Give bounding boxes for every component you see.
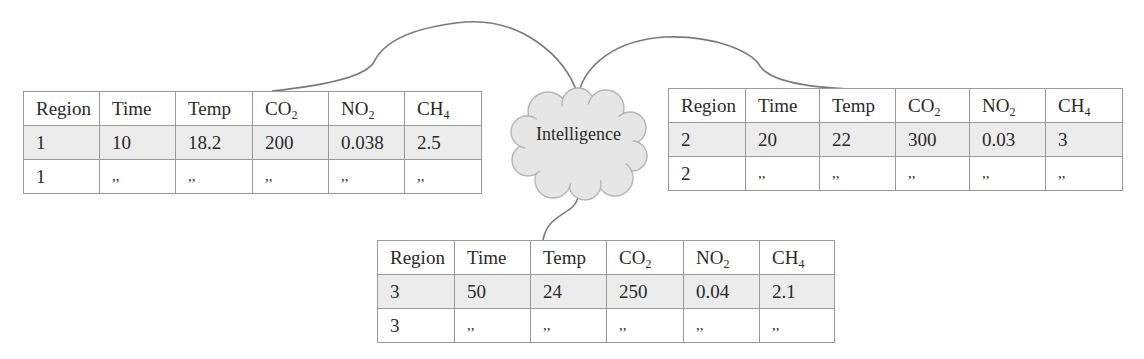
header-time: Time xyxy=(100,92,176,126)
table-row: 1 10 18.2 200 0.038 2.5 xyxy=(24,126,482,160)
header-co2: CO2 xyxy=(253,92,329,126)
cell-ch4: 2.5 xyxy=(405,126,482,160)
table-row: 1 ,, ,, ,, ,, ,, xyxy=(24,160,482,194)
cell-temp: 22 xyxy=(820,123,896,157)
header-temp: Temp xyxy=(176,92,253,126)
cell-ch4: ,, xyxy=(405,160,482,194)
header-time: Time xyxy=(455,241,531,275)
connector-cloud-to-table2 xyxy=(578,37,880,95)
cell-no2: 0.038 xyxy=(329,126,405,160)
header-region: Region xyxy=(669,89,746,123)
cell-co2: ,, xyxy=(896,157,970,191)
header-region: Region xyxy=(24,92,100,126)
header-no2: NO2 xyxy=(684,241,760,275)
cell-co2: ,, xyxy=(607,309,684,343)
cell-co2: 200 xyxy=(253,126,329,160)
data-table-region-1: Region Time Temp CO2 NO2 CH4 1 10 18.2 2… xyxy=(23,91,482,194)
cell-ch4: 2.1 xyxy=(760,275,835,309)
cell-region: 3 xyxy=(378,309,455,343)
header-no2: NO2 xyxy=(329,92,405,126)
table-header-row: Region Time Temp CO2 NO2 CH4 xyxy=(669,89,1123,123)
cell-time: ,, xyxy=(746,157,820,191)
cell-ch4: ,, xyxy=(1046,157,1123,191)
data-table-region-2: Region Time Temp CO2 NO2 CH4 2 20 22 300… xyxy=(668,88,1123,191)
cell-region: 2 xyxy=(669,123,746,157)
cell-region: 1 xyxy=(24,160,100,194)
header-temp: Temp xyxy=(531,241,607,275)
cell-no2: ,, xyxy=(329,160,405,194)
cell-region: 2 xyxy=(669,157,746,191)
intelligence-label: Intelligence xyxy=(512,124,645,145)
cell-temp: ,, xyxy=(820,157,896,191)
connector-cloud-to-table3 xyxy=(543,196,578,240)
cell-no2: ,, xyxy=(684,309,760,343)
cell-region: 3 xyxy=(378,275,455,309)
cell-co2: 250 xyxy=(607,275,684,309)
header-region: Region xyxy=(378,241,455,275)
cell-time: ,, xyxy=(455,309,531,343)
cell-co2: ,, xyxy=(253,160,329,194)
header-co2: CO2 xyxy=(896,89,970,123)
cell-no2: 0.03 xyxy=(970,123,1046,157)
table-row: 2 ,, ,, ,, ,, ,, xyxy=(669,157,1123,191)
header-ch4: CH4 xyxy=(760,241,835,275)
cell-time: 10 xyxy=(100,126,176,160)
cell-temp: ,, xyxy=(176,160,253,194)
header-ch4: CH4 xyxy=(1046,89,1123,123)
table-header-row: Region Time Temp CO2 NO2 CH4 xyxy=(24,92,482,126)
cell-temp: 24 xyxy=(531,275,607,309)
header-co2: CO2 xyxy=(607,241,684,275)
cell-time: ,, xyxy=(100,160,176,194)
cell-ch4: ,, xyxy=(760,309,835,343)
cell-region: 1 xyxy=(24,126,100,160)
cell-time: 20 xyxy=(746,123,820,157)
connector-table1-to-cloud xyxy=(272,22,578,95)
header-no2: NO2 xyxy=(970,89,1046,123)
data-table-region-3: Region Time Temp CO2 NO2 CH4 3 50 24 250… xyxy=(377,240,835,343)
cell-co2: 300 xyxy=(896,123,970,157)
header-temp: Temp xyxy=(820,89,896,123)
cell-time: 50 xyxy=(455,275,531,309)
cell-ch4: 3 xyxy=(1046,123,1123,157)
header-time: Time xyxy=(746,89,820,123)
cell-no2: ,, xyxy=(970,157,1046,191)
table-row: 3 50 24 250 0.04 2.1 xyxy=(378,275,835,309)
table-header-row: Region Time Temp CO2 NO2 CH4 xyxy=(378,241,835,275)
header-ch4: CH4 xyxy=(405,92,482,126)
table-row: 3 ,, ,, ,, ,, ,, xyxy=(378,309,835,343)
cell-no2: 0.04 xyxy=(684,275,760,309)
cell-temp: 18.2 xyxy=(176,126,253,160)
table-row: 2 20 22 300 0.03 3 xyxy=(669,123,1123,157)
cell-temp: ,, xyxy=(531,309,607,343)
